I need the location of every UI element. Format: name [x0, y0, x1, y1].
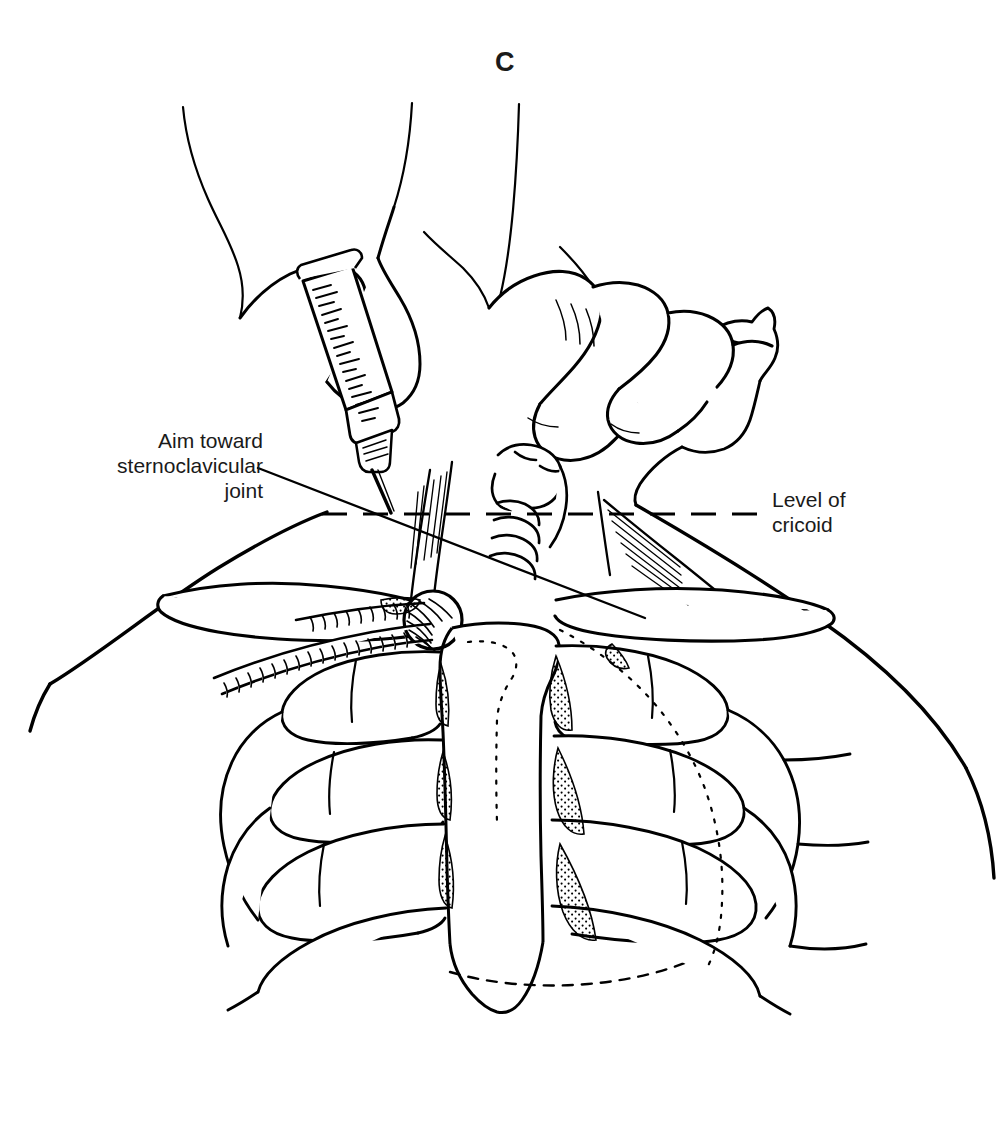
- figure-root: C Aim toward sternoclavicular joint Leve…: [0, 0, 1003, 1139]
- level-of-cricoid-label: Level of cricoid: [772, 487, 972, 537]
- aim-toward-sternoclavicular-joint-label: Aim toward sternoclavicular joint: [88, 428, 263, 503]
- illustration-canvas: [0, 0, 1003, 1139]
- panel-letter: C: [495, 47, 515, 78]
